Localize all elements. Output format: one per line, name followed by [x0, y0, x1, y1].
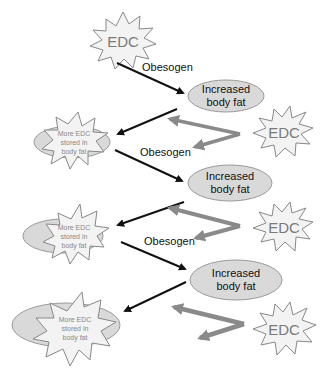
stored-edc-label-1: More EDC stored in body fat	[58, 129, 91, 156]
increased-fat-label-2: Increased body fat	[206, 170, 254, 196]
increased-line2: body fat	[212, 280, 260, 293]
edc-gray-arrow-2	[170, 208, 240, 226]
edc-gray-arrow-3b	[200, 324, 244, 338]
edc-label-1: EDC	[268, 124, 300, 141]
edc-label-3: EDC	[268, 321, 300, 338]
edc-gray-arrow-3	[174, 307, 244, 324]
return-arrow-1	[118, 109, 177, 134]
obesogen-label-3: Obesogen	[144, 235, 195, 247]
obesogen-cycle-diagram: EDC Obesogen Increased body fat EDC More…	[0, 0, 329, 389]
increased-fat-label-1: Increased body fat	[202, 83, 250, 109]
stored-edc-label-3: More EDC stored in body fat	[59, 315, 92, 342]
stored-line3: body fat	[58, 147, 91, 156]
increased-line2: body fat	[202, 96, 250, 109]
stored-line3: body fat	[58, 241, 91, 250]
stored-line2: stored in	[59, 324, 92, 333]
stored-line2: stored in	[58, 138, 91, 147]
increased-line1: Increased	[212, 267, 260, 280]
increased-line1: Increased	[202, 83, 250, 96]
stored-line1: More EDC	[58, 223, 91, 232]
obesogen-label-1: Obesogen	[142, 61, 193, 73]
edc-label-2: EDC	[268, 219, 300, 236]
increased-line1: Increased	[206, 170, 254, 183]
stored-line3: body fat	[59, 333, 92, 342]
stored-line2: stored in	[58, 232, 91, 241]
edc-gray-arrow-1	[170, 119, 240, 134]
stored-line1: More EDC	[59, 315, 92, 324]
edc-gray-arrow-2b	[196, 226, 240, 238]
edc-gray-arrow-1b	[195, 134, 240, 147]
increased-fat-label-3: Increased body fat	[212, 267, 260, 293]
stored-line1: More EDC	[58, 129, 91, 138]
edc-label-top: EDC	[107, 33, 139, 50]
stored-edc-label-2: More EDC stored in body fat	[58, 223, 91, 250]
obesogen-label-2: Obesogen	[140, 146, 191, 158]
return-arrow-2	[118, 202, 184, 225]
increased-line2: body fat	[206, 183, 254, 196]
